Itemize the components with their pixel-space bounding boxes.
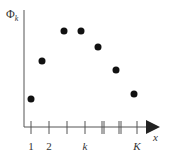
x-tick-label-k: k <box>83 140 89 152</box>
point-3 <box>61 28 68 35</box>
point-7 <box>131 91 138 98</box>
point-5 <box>95 44 102 51</box>
x-tick-label-1: 1 <box>28 140 34 152</box>
x-tick-label-K: K <box>132 140 141 152</box>
point-1 <box>28 96 35 103</box>
y-axis-label: Φk <box>6 7 19 23</box>
x-axis-label: x <box>152 131 158 143</box>
x-tick-label-2: 2 <box>46 140 52 152</box>
chart: Φk x 1 2 k K <box>0 0 170 157</box>
point-2 <box>39 58 46 65</box>
point-4 <box>78 28 85 35</box>
point-6 <box>113 67 120 74</box>
data-points <box>28 28 138 103</box>
